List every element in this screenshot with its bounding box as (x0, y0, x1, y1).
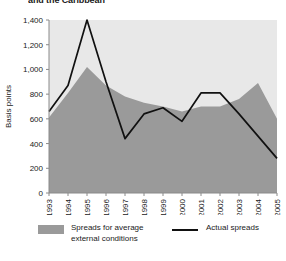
x-axis-tick-label: 1996 (102, 198, 111, 215)
y-axis-title: Basis points (4, 85, 13, 128)
x-axis-tick-label: 2004 (254, 198, 263, 215)
y-axis-tick-label: 1,400 (23, 16, 44, 25)
legend-area-label-line2: external conditions (71, 234, 138, 243)
chart-svg: 02004006008001,0001,2001,400Basis points… (0, 0, 286, 215)
x-axis-tick-label: 1994 (64, 198, 73, 215)
y-axis-tick-label: 200 (30, 164, 44, 173)
y-axis-tick-label: 1,000 (23, 65, 44, 74)
y-axis-tick-label: 800 (30, 90, 44, 99)
x-axis-tick-label: 2001 (197, 198, 206, 215)
x-axis-tick-label: 1999 (159, 198, 168, 215)
x-axis-tick-label: 1997 (121, 198, 130, 215)
legend-area-label-line1: Spreads for average (71, 223, 144, 232)
y-axis-tick-label: 1,200 (23, 41, 44, 50)
y-axis-tick-label: 400 (30, 140, 44, 149)
x-axis-tick-label: 2002 (216, 198, 225, 215)
legend-area-label: Spreads for average external conditions (71, 222, 161, 244)
legend-area-swatch (38, 225, 64, 234)
legend-line-label: Actual spreads (206, 223, 259, 232)
x-axis-tick-label: 2005 (273, 198, 282, 215)
x-axis-tick-label: 2003 (235, 198, 244, 215)
y-axis-tick-label: 600 (30, 115, 44, 124)
x-axis-tick-label: 1995 (83, 198, 92, 215)
x-axis-tick-label: 1998 (140, 198, 149, 215)
chart-plot-area: 02004006008001,0001,2001,400Basis points… (0, 0, 286, 215)
chart-legend: Spreads for average external conditions … (38, 222, 282, 256)
y-axis-tick-label: 0 (39, 189, 44, 198)
x-axis-tick-label: 1993 (45, 198, 54, 215)
x-axis-tick-label: 2000 (178, 198, 187, 215)
legend-line-swatch (172, 229, 198, 231)
